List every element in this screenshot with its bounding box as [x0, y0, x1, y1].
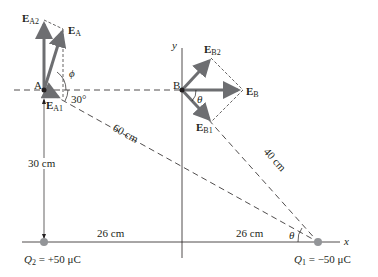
- label-eb2: EB2: [204, 44, 221, 57]
- label-theta-q1: θ: [289, 230, 294, 241]
- theta-q1-arc: [298, 228, 302, 242]
- label-26cm-left: 26 cm: [97, 228, 124, 239]
- label-eb: EB: [246, 86, 259, 99]
- label-charge-q1: Q1 = −50 μC: [294, 254, 351, 267]
- point-a-dot: [42, 88, 47, 93]
- phi-arc: [57, 72, 66, 90]
- distance-60cm-label: 60 cm: [111, 121, 141, 145]
- label-ea2: EA2: [22, 13, 39, 26]
- thirty-arc: [65, 90, 68, 101]
- label-ea1: EA1: [46, 100, 63, 113]
- diagram-canvas: 60 cm 40 cm: [0, 0, 378, 277]
- label-theta-b: θ: [197, 94, 202, 105]
- label-point-b: B: [173, 80, 180, 91]
- vector-eb2: [182, 61, 209, 90]
- label-26cm-right: 26 cm: [236, 228, 263, 239]
- vector-ea: [44, 32, 62, 90]
- distance-40cm-label: 40 cm: [262, 145, 289, 174]
- label-eb1: EB1: [196, 122, 213, 135]
- label-y-axis: y: [172, 40, 177, 51]
- label-x-axis: x: [344, 236, 349, 247]
- label-30cm: 30 cm: [28, 158, 55, 169]
- label-30deg: 30°: [71, 94, 86, 105]
- charge-q1: [314, 238, 322, 246]
- label-point-a: A: [34, 80, 42, 91]
- charge-q2: [40, 238, 48, 246]
- label-ea: EA: [68, 25, 81, 38]
- label-phi: ϕ: [69, 68, 75, 79]
- label-charge-q2: Q2 = +50 μC: [24, 254, 81, 267]
